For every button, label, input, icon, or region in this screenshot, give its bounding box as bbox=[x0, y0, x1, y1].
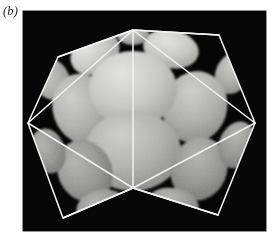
photograph-panel bbox=[23, 11, 266, 231]
panel-label: (b) bbox=[3, 5, 18, 18]
icosahedron-render bbox=[23, 11, 266, 231]
figure-root: (b) bbox=[0, 0, 276, 243]
